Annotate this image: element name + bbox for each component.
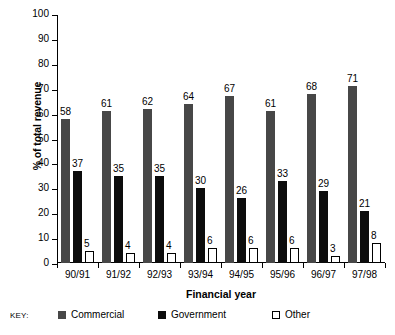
- y-axis-tick: 30: [52, 189, 57, 190]
- legend-item-commercial[interactable]: Commercial: [58, 309, 124, 320]
- y-axis-tick-label: 90: [23, 33, 49, 44]
- bar-group: 64306: [184, 14, 217, 263]
- bar-value-label: 33: [277, 168, 288, 179]
- legend-item-other[interactable]: Other: [272, 309, 310, 320]
- bar-government: [73, 171, 82, 263]
- y-axis-tick-label: 30: [23, 182, 49, 193]
- bar-value-label: 4: [125, 240, 131, 251]
- x-axis-tick-label: 96/97: [303, 269, 344, 280]
- bar-value-label: 35: [113, 163, 124, 174]
- y-axis-tick-label: 80: [23, 58, 49, 69]
- bar-government: [360, 211, 369, 263]
- bar-group: 68293: [307, 14, 340, 263]
- legend-key-label: KEY:: [10, 311, 29, 320]
- y-axis-tick-label: 40: [23, 157, 49, 168]
- y-axis-tick: 100: [52, 15, 57, 16]
- y-axis-tick: 70: [52, 90, 57, 91]
- bar-commercial: [184, 104, 193, 263]
- y-axis-tick: 60: [52, 115, 57, 116]
- bar-government: [114, 176, 123, 263]
- bar-value-label: 4: [166, 240, 172, 251]
- bar-group: 62354: [143, 14, 176, 263]
- bar-value-label: 62: [142, 96, 153, 107]
- bar-value-label: 8: [371, 230, 377, 241]
- bar-government: [237, 198, 246, 263]
- y-axis-tick-label: 50: [23, 133, 49, 144]
- x-axis-tick: [139, 263, 140, 268]
- bar-commercial: [266, 111, 275, 263]
- bar-commercial: [225, 96, 234, 263]
- y-axis-tick-label: 70: [23, 83, 49, 94]
- plot-area: 01020304050607080901005837590/916135491/…: [57, 15, 385, 263]
- y-axis-tick: 40: [52, 164, 57, 165]
- bar-government: [319, 191, 328, 263]
- bar-commercial: [143, 109, 152, 263]
- legend-label: Other: [285, 309, 310, 320]
- bar-group: 71218: [348, 14, 381, 263]
- bar-group: 61336: [266, 14, 299, 263]
- bar-government: [196, 188, 205, 263]
- legend-swatch-icon: [58, 311, 66, 319]
- bar-value-label: 30: [195, 175, 206, 186]
- bar-value-label: 21: [359, 198, 370, 209]
- bar-value-label: 67: [224, 83, 235, 94]
- bar-government: [278, 181, 287, 263]
- bar-other: [372, 243, 381, 263]
- legend-item-government[interactable]: Government: [158, 309, 226, 320]
- bar-commercial: [102, 111, 111, 263]
- x-axis-tick-label: 97/98: [344, 269, 385, 280]
- bar-group: 58375: [61, 14, 94, 263]
- x-axis-tick: [221, 263, 222, 268]
- bar-other: [249, 248, 258, 263]
- x-axis-tick: [98, 263, 99, 268]
- y-axis-tick: 80: [52, 65, 57, 66]
- x-axis-tick: [344, 263, 345, 268]
- x-axis-tick-label: 95/96: [262, 269, 303, 280]
- bar-value-label: 29: [318, 178, 329, 189]
- x-axis-tick: [303, 263, 304, 268]
- y-axis-tick-label: 100: [23, 8, 49, 19]
- bar-value-label: 26: [236, 185, 247, 196]
- bar-other: [167, 253, 176, 263]
- x-axis-tick: [57, 263, 58, 268]
- x-axis-tick: [385, 263, 386, 268]
- y-axis-tick-label: 20: [23, 207, 49, 218]
- bar-other: [208, 248, 217, 263]
- x-axis-title: Financial year: [57, 288, 385, 300]
- x-axis-tick-label: 90/91: [57, 269, 98, 280]
- x-axis-tick-label: 92/93: [139, 269, 180, 280]
- legend-label: Commercial: [71, 309, 124, 320]
- x-axis-tick: [262, 263, 263, 268]
- x-axis-tick: [180, 263, 181, 268]
- bar-value-label: 35: [154, 163, 165, 174]
- y-axis-tick: 90: [52, 40, 57, 41]
- bar-value-label: 68: [306, 81, 317, 92]
- x-axis-tick-label: 94/95: [221, 269, 262, 280]
- y-axis-tick-label: 0: [23, 257, 49, 268]
- bar-value-label: 5: [84, 238, 90, 249]
- y-axis-line: [57, 15, 58, 264]
- bar-value-label: 71: [347, 73, 358, 84]
- bar-other: [290, 248, 299, 263]
- bar-value-label: 58: [60, 106, 71, 117]
- bar-value-label: 6: [289, 235, 295, 246]
- bar-other: [85, 251, 94, 263]
- y-axis-tick: 20: [52, 214, 57, 215]
- x-axis-tick-label: 91/92: [98, 269, 139, 280]
- y-axis-tick-label: 10: [23, 232, 49, 243]
- legend-label: Government: [171, 309, 226, 320]
- legend-swatch-icon: [158, 311, 166, 319]
- bar-commercial: [307, 94, 316, 263]
- bar-commercial: [61, 119, 70, 263]
- y-axis-tick: 50: [52, 140, 57, 141]
- chart-legend: KEY: CommercialGovernmentOther: [10, 309, 390, 325]
- bar-government: [155, 176, 164, 263]
- bar-other: [126, 253, 135, 263]
- y-axis-tick-label: 60: [23, 108, 49, 119]
- bar-group: 61354: [102, 14, 135, 263]
- bar-value-label: 61: [101, 98, 112, 109]
- bar-value-label: 61: [265, 98, 276, 109]
- bar-value-label: 37: [72, 158, 83, 169]
- bar-value-label: 3: [330, 243, 336, 254]
- bar-value-label: 64: [183, 91, 194, 102]
